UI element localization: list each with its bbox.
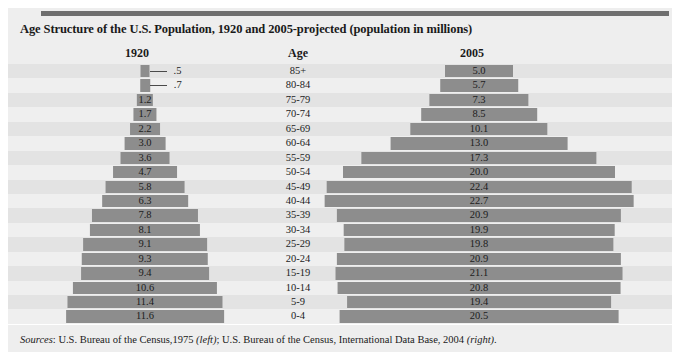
age-group-label: 80-84	[286, 78, 311, 92]
bar-value-1920: 11.6	[136, 309, 154, 323]
sources-right-text: ; U.S. Bureau of the Census, Internation…	[216, 334, 466, 345]
leader-line	[150, 71, 167, 73]
leader-line	[150, 85, 167, 87]
bar-value-2005: 22.7	[470, 194, 488, 208]
bar-value-1920: 5.8	[138, 180, 151, 194]
bar-value-2005: 19.9	[470, 223, 488, 237]
age-group-label: 75-79	[286, 93, 311, 107]
age-group-label: 35-39	[286, 208, 311, 222]
bar-value-1920: 8.1	[138, 223, 151, 237]
bar-value-1920: 3.0	[138, 136, 151, 150]
column-headers: 1920 Age 2005	[8, 46, 672, 64]
bar-value-2005: 17.3	[470, 151, 488, 165]
bar-value-1920: .7	[174, 78, 182, 92]
sources-right-note: (right)	[467, 334, 494, 345]
pyramid-row: .55.085+	[8, 64, 672, 78]
pyramid-row: 6.322.740-44	[8, 194, 672, 208]
age-group-label: 50-54	[286, 165, 311, 179]
age-group-label: 30-34	[286, 223, 311, 237]
bar-value-2005: 5.7	[472, 78, 485, 92]
bar-value-2005: 7.3	[472, 93, 485, 107]
sources-left-note: (left)	[196, 334, 216, 345]
bar-value-1920: 1.2	[138, 93, 151, 107]
bar-value-1920: 4.7	[138, 165, 151, 179]
bar-value-2005: 5.0	[472, 64, 485, 78]
bar-value-2005: 8.5	[472, 107, 485, 121]
age-group-label: 55-59	[286, 151, 311, 165]
pyramid-row: 2.210.165-69	[8, 122, 672, 136]
bar-1920	[141, 65, 150, 77]
bar-value-1920: 9.3	[138, 252, 151, 266]
age-group-label: 15-19	[286, 266, 311, 280]
bar-value-2005: 10.1	[470, 122, 488, 136]
bar-value-1920: 10.6	[136, 281, 154, 295]
top-rule-divider	[41, 11, 669, 16]
pyramid-row: 10.620.810-14	[8, 281, 672, 295]
age-group-label: 70-74	[286, 107, 311, 121]
age-group-label: 0-4	[291, 309, 305, 323]
bar-value-2005: 20.9	[470, 252, 488, 266]
bar-value-2005: 22.4	[470, 180, 488, 194]
pyramid-row: 4.720.050-54	[8, 165, 672, 179]
bar-value-2005: 19.4	[470, 295, 488, 309]
pyramid-row: 11.419.45-9	[8, 295, 672, 309]
bar-value-2005: 19.8	[470, 237, 488, 251]
pyramid-row: 1.27.375-79	[8, 93, 672, 107]
sources-note: Sources: U.S. Bureau of the Census,1975 …	[20, 334, 665, 345]
pyramid-row: 5.822.445-49	[8, 180, 672, 194]
age-group-label: 25-29	[286, 237, 311, 251]
bar-value-1920: .5	[174, 64, 182, 78]
figure-title: Age Structure of the U.S. Population, 19…	[20, 22, 660, 37]
pyramid-row: 3.617.355-59	[8, 151, 672, 165]
bar-1920	[140, 79, 150, 91]
population-pyramid-figure: Age Structure of the U.S. Population, 19…	[8, 8, 672, 352]
pyramid-row: .75.780-84	[8, 78, 672, 92]
bar-value-1920: 9.4	[138, 266, 151, 280]
pyramid-row: 3.013.060-64	[8, 136, 672, 150]
age-group-label: 65-69	[286, 122, 311, 136]
bar-value-1920: 7.8	[138, 208, 151, 222]
bar-value-1920: 3.6	[138, 151, 151, 165]
age-group-label: 85+	[290, 64, 306, 78]
age-group-label: 45-49	[286, 180, 311, 194]
sources-label: Sources	[20, 334, 53, 345]
pyramid-row: 11.620.50-4	[8, 309, 672, 323]
age-group-label: 20-24	[286, 252, 311, 266]
bar-value-1920: 2.2	[138, 122, 151, 136]
pyramid-row: 1.78.570-74	[8, 107, 672, 121]
pyramid-row: 9.119.825-29	[8, 237, 672, 251]
bar-value-2005: 13.0	[470, 136, 488, 150]
bar-value-1920: 9.1	[138, 237, 151, 251]
column-header-age: Age	[288, 46, 308, 61]
pyramid-row: 8.119.930-34	[8, 223, 672, 237]
bar-value-2005: 20.8	[470, 281, 488, 295]
sources-left-text: U.S. Bureau of the Census,1975	[58, 334, 196, 345]
pyramid-row: 9.320.920-24	[8, 252, 672, 266]
bar-value-2005: 20.9	[470, 208, 488, 222]
age-group-label: 5-9	[291, 295, 305, 309]
pyramid-row: 7.820.935-39	[8, 208, 672, 222]
bar-value-2005: 20.0	[470, 165, 488, 179]
age-group-label: 60-64	[286, 136, 311, 150]
footer-divider	[8, 324, 672, 325]
column-header-1920: 1920	[125, 46, 149, 61]
age-group-label: 40-44	[286, 194, 311, 208]
bar-value-2005: 20.5	[470, 309, 488, 323]
bar-value-2005: 21.1	[470, 266, 488, 280]
bar-value-1920: 11.4	[136, 295, 154, 309]
pyramid-row: 9.421.115-19	[8, 266, 672, 280]
bar-value-1920: 1.7	[138, 107, 151, 121]
sources-period: .	[494, 334, 497, 345]
bar-value-1920: 6.3	[138, 194, 151, 208]
column-header-2005: 2005	[460, 46, 484, 61]
age-group-label: 10-14	[286, 281, 311, 295]
pyramid-rows: .55.085+.75.780-841.27.375-791.78.570-74…	[8, 64, 672, 324]
